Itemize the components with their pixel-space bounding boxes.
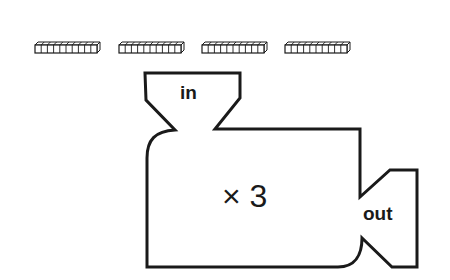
rule-label: × 3: [222, 178, 267, 215]
ten-rod-4: [285, 42, 350, 53]
function-machine-diagram: [0, 0, 450, 280]
output-label: out: [363, 203, 393, 225]
input-label: in: [180, 82, 197, 104]
input-rods: [35, 42, 350, 53]
ten-rod-3: [202, 42, 267, 53]
ten-rod-1: [35, 42, 100, 53]
ten-rod-2: [119, 42, 184, 53]
